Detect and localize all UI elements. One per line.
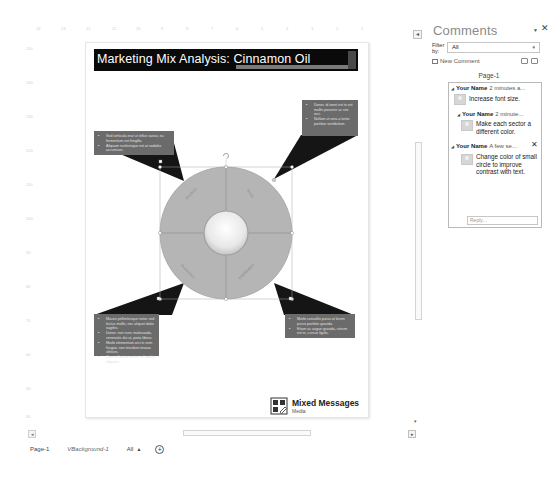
horizontal-ruler: 14 13 12 11 10 9 8 7 6 5 4 3 2 1 (28, 26, 384, 34)
filter-dropdown[interactable]: All ▼ (447, 42, 540, 53)
reply-input[interactable]: Reply... (467, 216, 538, 225)
resize-handle[interactable] (158, 165, 161, 168)
add-page-button[interactable]: + (155, 445, 164, 454)
delete-comment-icon[interactable]: ✕ (531, 140, 538, 149)
avatar (454, 94, 466, 105)
comment-text[interactable]: Make each sector a different color. (476, 120, 540, 135)
tab-vbackground-1[interactable]: VBackground-1 (67, 446, 108, 452)
caret-up-icon: ▲ (136, 446, 141, 452)
vertical-scroll-thumb[interactable] (415, 142, 422, 320)
scroll-right-button[interactable]: ▸ (408, 430, 416, 438)
vertical-scrollbar[interactable]: ◂ ▾ (413, 30, 422, 430)
rotate-handle-icon[interactable] (223, 153, 228, 158)
callout-bottom-right[interactable]: Morbi convallis purus at lorem purus por… (285, 314, 355, 338)
callout-top-right[interactable]: Donec id amet est in est mollis posuere … (302, 100, 358, 136)
connector-point[interactable] (289, 297, 292, 300)
comment-text[interactable]: Increase font size. (469, 95, 541, 103)
avatar (461, 120, 473, 131)
connector-top-right (274, 135, 358, 179)
scroll-down-icon[interactable]: ▾ (414, 418, 417, 424)
filter-label: Filter by: (432, 42, 444, 54)
resize-handle[interactable] (290, 231, 293, 234)
center-circle[interactable] (204, 211, 248, 255)
collapse-triangle-icon[interactable]: ◢ (451, 86, 454, 91)
scroll-left-button[interactable]: ◂ (28, 430, 36, 438)
all-pages-menu[interactable]: All ▲ (127, 446, 142, 452)
page-tabs-bar: Page-1 VBackground-1 All ▲ + (30, 442, 164, 456)
chevron-down-icon: ▼ (532, 43, 536, 52)
company-logo[interactable]: Mixed Messages Media (270, 395, 370, 417)
vertical-ruler: 150 140 130 120 110 100 90 80 70 60 50 4… (22, 34, 34, 424)
horizontal-scrollbar[interactable]: ▸ (183, 430, 413, 438)
logo-icon (270, 397, 288, 415)
comments-page-label: Page-1 (424, 72, 554, 79)
comments-pane-title: Comments (433, 23, 497, 38)
collapse-triangle-icon[interactable]: ◢ (451, 144, 454, 149)
resize-handle[interactable] (224, 297, 227, 300)
resize-handle[interactable] (290, 165, 293, 168)
visio-window: 14 13 12 11 10 9 8 7 6 5 4 3 2 1 150 140… (0, 0, 560, 477)
comment-thread: ◢Your Name2 minutes a... Increase font s… (448, 82, 542, 228)
comment-header[interactable]: ◢Your Name2 minutes a... (451, 85, 525, 91)
avatar (461, 154, 473, 165)
previous-comment-icon[interactable] (521, 58, 528, 64)
next-comment-icon[interactable] (531, 58, 538, 64)
horizontal-scroll-thumb[interactable] (183, 430, 311, 436)
new-comment-button[interactable]: New Comment (432, 58, 480, 64)
connector-point[interactable] (159, 160, 162, 163)
comment-text[interactable]: Change color of small circle to improve … (476, 153, 540, 176)
drawing-page[interactable]: Marketing Mix Analysis: Cinnamon Oil (85, 42, 369, 418)
comment-header[interactable]: ◢Your Name2 minute... (457, 111, 523, 117)
pane-options-icon[interactable]: ▼ (533, 27, 538, 33)
callout-bottom-left[interactable]: Mauris pellentesque tortor sed lectus mo… (94, 314, 159, 356)
tab-page-1[interactable]: Page-1 (30, 446, 49, 452)
connector-point[interactable] (157, 297, 160, 300)
collapse-pane-button[interactable]: ◂ (413, 30, 422, 39)
close-icon[interactable]: ✕ (541, 23, 549, 33)
comment-icon (432, 59, 438, 64)
comments-pane: Comments ▼ ✕ Filter by: All ▼ New Commen… (430, 22, 560, 222)
collapse-triangle-icon[interactable]: ◢ (457, 112, 460, 117)
comment-header[interactable]: ◢Your NameA few se... (451, 143, 517, 149)
callout-top-left[interactable]: Sed vehicula erat ut tellus varius, eu f… (94, 131, 174, 155)
resize-handle[interactable] (158, 231, 161, 234)
